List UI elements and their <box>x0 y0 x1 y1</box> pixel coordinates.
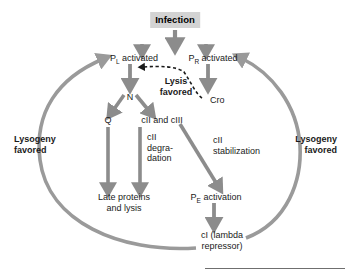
node-late-proteins-and-lysis: Late proteinsand lysis <box>83 192 165 213</box>
node-pe-activation-suffix: activation <box>201 192 242 202</box>
node-cii-and-ciii: cII and cIII <box>141 115 183 126</box>
edge-label-lysogeny-favored-left: Lysogenyfavored <box>14 134 70 155</box>
node-n: N <box>127 92 134 103</box>
node-pl-activated: PL activated <box>110 53 158 67</box>
arrow-n-to-q <box>112 95 124 112</box>
node-infection: Infection <box>150 12 200 28</box>
diagram-canvas: Infection PL activated PR activated N Cr… <box>0 0 350 275</box>
node-pe-activation: PE activation <box>191 192 242 206</box>
node-pr-activated: PR activated <box>188 53 237 67</box>
node-pl-activated-suffix: activated <box>120 53 159 63</box>
edge-label-cii-stabilization: cIIstabilization <box>213 135 271 156</box>
node-ci-lambda-repressor: cI (lambdarepressor) <box>191 230 253 251</box>
node-cro: Cro <box>210 95 225 106</box>
arrow-n-to-cii-ciii <box>136 95 150 112</box>
bottom-rule <box>205 268 345 269</box>
edge-label-lysogeny-favored-right: Lysogenyfavored <box>279 134 337 155</box>
edge-label-lysis-favored: Lysisfavored <box>152 76 200 97</box>
node-pr-activated-suffix: activated <box>199 53 238 63</box>
arrow-infection-to-promoters <box>142 30 206 50</box>
edge-label-cii-degradation: cIIdegra-dation <box>147 132 181 164</box>
node-q: Q <box>104 115 111 126</box>
